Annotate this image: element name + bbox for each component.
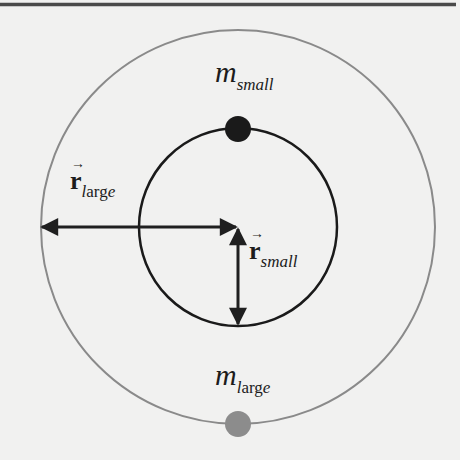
- m-small-label: msmall: [215, 57, 274, 87]
- r-small-symbol: →r: [249, 236, 261, 265]
- r-small-subscript: small: [261, 252, 298, 271]
- r-small-label: →rsmall: [249, 238, 297, 264]
- m-large-symbol: m: [215, 358, 237, 391]
- r-large-label: →rlarge: [70, 168, 115, 194]
- r-large-symbol: →r: [70, 166, 82, 195]
- large-mass: [225, 411, 251, 437]
- small-mass: [225, 116, 251, 142]
- m-large-label: mlarge: [215, 360, 270, 390]
- m-large-subscript: large: [237, 378, 271, 397]
- m-small-subscript: small: [237, 75, 274, 94]
- m-small-symbol: m: [215, 55, 237, 88]
- vector-arrow-icon: →: [71, 157, 85, 171]
- vector-arrow-icon: →: [250, 227, 264, 241]
- r-large-subscript: large: [82, 182, 116, 201]
